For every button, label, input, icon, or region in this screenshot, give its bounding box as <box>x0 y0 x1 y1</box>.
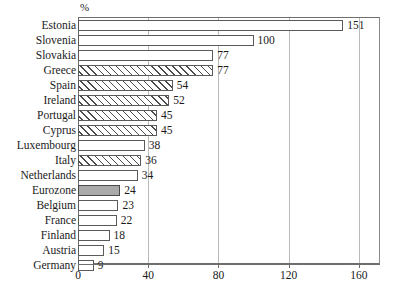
bar-value-label: 23 <box>122 198 134 213</box>
bar-value-label: 38 <box>149 138 161 153</box>
category-label: Portugal <box>0 108 76 123</box>
bar-row: Luxembourg38 <box>0 138 397 153</box>
x-tick-40 <box>148 264 149 268</box>
bar-value-label: 77 <box>217 63 229 78</box>
bar-value-label: 9 <box>98 258 104 273</box>
category-label: Eurozone <box>0 183 76 198</box>
axis-unit-label: % <box>80 2 89 13</box>
bar-value-label: 77 <box>217 48 229 63</box>
bar <box>78 20 343 31</box>
category-label: Luxembourg <box>0 138 76 153</box>
x-tick-0 <box>78 264 79 268</box>
bar <box>78 230 110 241</box>
category-label: Cyprus <box>0 123 76 138</box>
bar-value-label: 22 <box>121 213 133 228</box>
bar-value-label: 151 <box>347 18 364 33</box>
bar <box>78 95 169 106</box>
category-label: Slovakia <box>0 48 76 63</box>
bar <box>78 215 117 226</box>
bar <box>78 125 157 136</box>
bar-value-label: 36 <box>145 153 157 168</box>
bar <box>78 155 141 166</box>
bar <box>78 35 254 46</box>
category-label: Austria <box>0 243 76 258</box>
x-tick-label: 120 <box>269 269 309 282</box>
bar-row: Cyprus45 <box>0 123 397 138</box>
bar-row: Portugal45 <box>0 108 397 123</box>
bar-value-label: 45 <box>161 108 173 123</box>
x-tick-label: 160 <box>339 269 379 282</box>
bar <box>78 110 157 121</box>
category-label: Finland <box>0 228 76 243</box>
bar-row: Greece77 <box>0 63 397 78</box>
category-label: Netherlands <box>0 168 76 183</box>
bar <box>78 200 118 211</box>
bar-chart: % Estonia151Slovenia100Slovakia77Greece7… <box>0 0 397 297</box>
bar-value-label: 45 <box>161 123 173 138</box>
bar-row: Austria15 <box>0 243 397 258</box>
bar <box>78 140 145 151</box>
bar-row: Belgium23 <box>0 198 397 213</box>
category-label: Belgium <box>0 198 76 213</box>
category-label: Spain <box>0 78 76 93</box>
bar <box>78 80 173 91</box>
bar-row: Italy36 <box>0 153 397 168</box>
bar-row: Slovakia77 <box>0 48 397 63</box>
bar-row: Eurozone24 <box>0 183 397 198</box>
x-tick-80 <box>218 264 219 268</box>
x-tick-120 <box>289 264 290 268</box>
bar-row: Spain54 <box>0 78 397 93</box>
bar-row: Finland18 <box>0 228 397 243</box>
bar-value-label: 15 <box>108 243 120 258</box>
bar-row: Ireland52 <box>0 93 397 108</box>
bar-value-label: 54 <box>177 78 189 93</box>
bar-value-label: 34 <box>142 168 154 183</box>
bar-value-label: 100 <box>258 33 275 48</box>
category-label: Ireland <box>0 93 76 108</box>
bar-value-label: 24 <box>124 183 136 198</box>
category-label: Greece <box>0 63 76 78</box>
bar-row: Netherlands34 <box>0 168 397 183</box>
bar <box>78 170 138 181</box>
x-tick-160 <box>359 264 360 268</box>
bar <box>78 245 104 256</box>
category-label: Estonia <box>0 18 76 33</box>
x-axis-line <box>78 264 380 265</box>
x-tick-label: 80 <box>198 269 238 282</box>
x-tick-label: 0 <box>58 269 98 282</box>
category-label: Slovenia <box>0 33 76 48</box>
bar-rows: Estonia151Slovenia100Slovakia77Greece77S… <box>0 18 397 273</box>
bar-row: France22 <box>0 213 397 228</box>
bar <box>78 50 213 61</box>
category-label: Italy <box>0 153 76 168</box>
bar-row: Estonia151 <box>0 18 397 33</box>
bar <box>78 65 213 76</box>
bar-value-label: 18 <box>114 228 126 243</box>
x-tick-label: 40 <box>128 269 168 282</box>
bar-row: Slovenia100 <box>0 33 397 48</box>
bar <box>78 185 120 196</box>
bar-value-label: 52 <box>173 93 185 108</box>
category-label: France <box>0 213 76 228</box>
